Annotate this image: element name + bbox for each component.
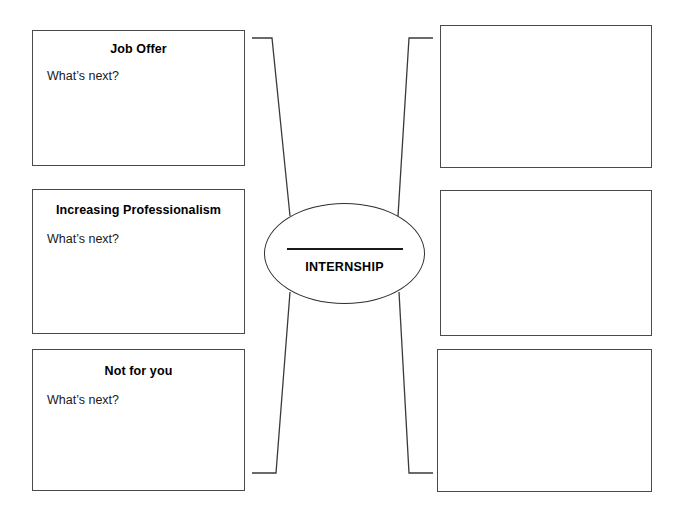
left-box-increasing-professionalism[interactable]: Increasing Professionalism What’s next? <box>32 189 245 334</box>
connector-bottom-left <box>252 292 290 473</box>
worksheet-canvas: Job Offer What’s next? Increasing Profes… <box>0 0 676 519</box>
left-box-title: Job Offer <box>33 42 244 56</box>
connector-top-left <box>252 38 290 216</box>
internship-hub-ellipse[interactable]: INTERNSHIP <box>264 203 425 304</box>
connector-top-right <box>398 38 433 216</box>
hub-blank-line[interactable] <box>287 248 403 250</box>
hub-label: INTERNSHIP <box>265 260 424 274</box>
left-box-subtitle: What’s next? <box>47 393 119 407</box>
right-box-1[interactable] <box>440 25 652 168</box>
right-box-2[interactable] <box>440 190 652 336</box>
right-box-3[interactable] <box>437 349 652 492</box>
connector-bottom-right <box>399 292 433 473</box>
left-box-not-for-you[interactable]: Not for you What’s next? <box>32 349 245 491</box>
left-box-title: Not for you <box>33 364 244 378</box>
left-box-job-offer[interactable]: Job Offer What’s next? <box>32 30 245 166</box>
left-box-subtitle: What’s next? <box>47 232 119 246</box>
left-box-title: Increasing Professionalism <box>33 203 244 217</box>
left-box-subtitle: What’s next? <box>47 69 119 83</box>
